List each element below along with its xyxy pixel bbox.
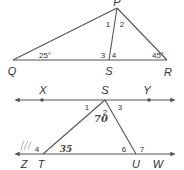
geometry-figure: P Q S R 1 2 3 4 25° 45° X S Y Z T U W 1 … <box>0 0 184 170</box>
segment-st <box>43 100 105 154</box>
angle-label-3-bottom: 3 <box>118 103 123 112</box>
point-dot-x <box>40 98 44 102</box>
angle-label-4-bottom: 4 <box>35 145 40 154</box>
triangle-pqr <box>13 8 167 60</box>
point-label-w: W <box>153 158 165 170</box>
point-label-y: Y <box>143 84 151 96</box>
angle-measure-r: 45° <box>152 51 164 60</box>
angle-label-1-bottom: 1 <box>85 103 90 112</box>
point-label-t: T <box>38 158 46 170</box>
point-label-z: Z <box>20 158 29 170</box>
point-dot-y <box>147 98 151 102</box>
angle-label-4: 4 <box>112 51 117 60</box>
point-label-s-bottom: S <box>101 84 109 96</box>
angle-measure-q: 25° <box>39 51 51 60</box>
point-label-u: U <box>132 158 140 170</box>
angle-label-2: 2 <box>120 20 125 29</box>
bottom-point-labels: X S Y Z T U W <box>20 84 165 170</box>
point-label-x: X <box>38 84 47 96</box>
handwritten-70: 70 <box>94 113 108 124</box>
angle-label-6: 6 <box>122 145 127 154</box>
point-label-q: Q <box>8 65 17 77</box>
handwritten-scribble-icon <box>21 141 31 150</box>
angle-label-3: 3 <box>101 51 106 60</box>
point-label-p: P <box>113 0 121 8</box>
angle-label-1: 1 <box>106 20 111 29</box>
point-label-r: R <box>164 66 172 78</box>
point-label-s: S <box>105 65 113 77</box>
angle-label-7: 7 <box>140 145 145 154</box>
handwritten-35: 35 <box>60 144 73 154</box>
top-angle-labels: 1 2 3 4 25° 45° <box>39 20 164 60</box>
